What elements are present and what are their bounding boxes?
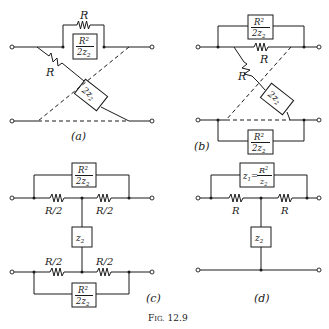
panel-label: (d) <box>254 292 270 305</box>
resistor-icon <box>49 53 62 66</box>
resistor-icon <box>50 194 64 202</box>
resistor-icon <box>229 194 243 202</box>
terminal <box>10 45 14 49</box>
impedance-box <box>72 227 92 247</box>
resistor-icon <box>254 43 268 51</box>
label-R: R <box>79 9 88 22</box>
resistor-icon <box>278 194 292 202</box>
impedance-box <box>251 227 271 247</box>
label-R: R <box>259 53 268 66</box>
svg-text:R/2: R/2 <box>95 205 113 216</box>
terminal <box>150 45 154 49</box>
resistor-icon <box>77 21 91 29</box>
panel-label: (c) <box>146 292 161 305</box>
panel-c: R2 2z2 R/2 R/2 z2 R/2 R/2 R2 <box>10 163 161 307</box>
resistor-icon <box>50 268 64 276</box>
figure-12-9: R R2 2z2 R 2z2 (a) R2 <box>0 0 329 329</box>
svg-text:R: R <box>280 205 289 216</box>
svg-text:R: R <box>231 205 240 216</box>
panel-b: R2 2z2 R R 2z2 R2 2z2 <box>194 15 321 154</box>
label-R: R <box>237 70 246 83</box>
panel-d: z1= R2 z2 R R z2 (d) <box>196 163 321 305</box>
svg-text:R/2: R/2 <box>44 256 62 267</box>
svg-text:R/2: R/2 <box>95 256 113 267</box>
label-R: R <box>45 66 54 79</box>
panel-a: R R2 2z2 R 2z2 (a) <box>10 9 154 143</box>
junction-dot <box>103 46 106 49</box>
figure-caption: FIG.12.9 <box>148 313 188 323</box>
panel-label: (a) <box>71 130 86 143</box>
terminal <box>10 119 14 123</box>
resistor-icon <box>97 268 111 276</box>
terminal <box>150 119 154 123</box>
junction-dot <box>62 46 65 49</box>
resistor-icon <box>97 194 111 202</box>
panel-label: (b) <box>194 140 210 153</box>
svg-text:R/2: R/2 <box>44 205 62 216</box>
svg-text:z1=: z1= <box>242 171 258 182</box>
